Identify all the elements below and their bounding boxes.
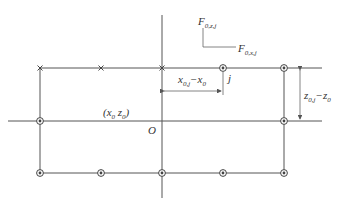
point-j-label: j [226,72,231,84]
circle-cross-marker [281,65,288,72]
dx-label: x0,j−x0 [177,73,206,88]
force-bracket [203,28,236,47]
circle-cross-marker [159,170,166,177]
circle-cross-marker [281,170,288,177]
force-x-label: F0,x,j [237,42,257,57]
force-z-label: F0,z,j [197,15,216,30]
dz-label: z0,j−z0 [303,89,331,104]
diagram-canvas: F0,z,j F0,x,j j O (x0 z0) x0,j−x0 z0,j−z… [0,0,337,198]
circle-cross-marker [281,118,288,125]
origin-label: O [148,124,156,136]
center-label: (x0 z0) [103,106,130,121]
circle-cross-marker [98,170,105,177]
circle-cross-marker [37,118,44,125]
circle-cross-marker [220,170,227,177]
circle-cross-marker [220,65,227,72]
circle-cross-marker [37,170,44,177]
